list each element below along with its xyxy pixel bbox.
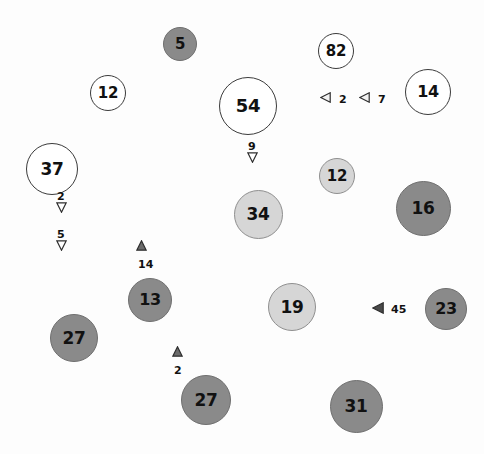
- flow-marker-label: 7: [378, 94, 386, 105]
- bubble-node: 14: [405, 69, 451, 115]
- bubble-node: 5: [163, 27, 197, 61]
- flow-marker-label: 45: [391, 304, 406, 315]
- bubble-node: 37: [26, 143, 78, 195]
- bubble-value-label: 23: [435, 301, 457, 317]
- triangle-left-icon: [372, 302, 384, 314]
- bubble-value-label: 54: [236, 97, 260, 115]
- bubble-value-label: 31: [344, 398, 367, 415]
- flow-marker-label: 2: [174, 365, 182, 376]
- flow-marker-label: 2: [339, 94, 347, 105]
- bubble-node: 12: [90, 75, 126, 111]
- flow-marker: 45: [372, 302, 384, 314]
- flow-marker: 5: [56, 240, 67, 251]
- bubble-map-canvas: 582121454371216341319232727312592714245: [0, 0, 484, 454]
- flow-marker: 2: [56, 202, 67, 213]
- bubble-value-label: 82: [326, 44, 346, 59]
- flow-marker: 2: [172, 346, 183, 357]
- bubble-value-label: 16: [411, 200, 434, 217]
- bubble-node: 82: [318, 33, 354, 69]
- bubble-node: 27: [50, 314, 98, 362]
- bubble-node: 27: [181, 375, 231, 425]
- bubble-value-label: 27: [62, 330, 85, 347]
- flow-marker: 9: [247, 152, 258, 163]
- bubble-value-label: 13: [139, 292, 161, 308]
- triangle-down-icon: [56, 240, 67, 251]
- triangle-left-icon: [320, 92, 331, 103]
- bubble-value-label: 12: [327, 169, 347, 184]
- flow-marker-label: 2: [57, 191, 65, 202]
- flow-marker-label: 5: [57, 229, 65, 240]
- bubble-value-label: 12: [98, 86, 118, 101]
- triangle-up-icon: [136, 240, 147, 251]
- bubble-value-label: 5: [175, 37, 185, 52]
- flow-marker: 2: [320, 92, 331, 103]
- flow-marker-label: 9: [248, 141, 256, 152]
- bubble-node: 13: [128, 278, 172, 322]
- bubble-node: 34: [234, 190, 283, 239]
- triangle-up-icon: [172, 346, 183, 357]
- bubble-value-label: 14: [417, 84, 439, 100]
- bubble-node: 31: [330, 380, 383, 433]
- triangle-down-icon: [56, 202, 67, 213]
- bubble-value-label: 34: [246, 206, 269, 223]
- bubble-value-label: 37: [40, 161, 63, 178]
- bubble-node: 19: [268, 283, 316, 331]
- bubble-value-label: 19: [280, 299, 303, 316]
- flow-marker: 14: [136, 240, 147, 251]
- bubble-node: 23: [425, 288, 467, 330]
- flow-marker: 7: [359, 92, 370, 103]
- bubble-node: 54: [219, 77, 277, 135]
- triangle-left-icon: [359, 92, 370, 103]
- bubble-node: 16: [396, 181, 451, 236]
- flow-marker-label: 14: [138, 259, 153, 270]
- triangle-down-icon: [247, 152, 258, 163]
- bubble-value-label: 27: [194, 392, 217, 409]
- bubble-node: 12: [319, 158, 355, 194]
